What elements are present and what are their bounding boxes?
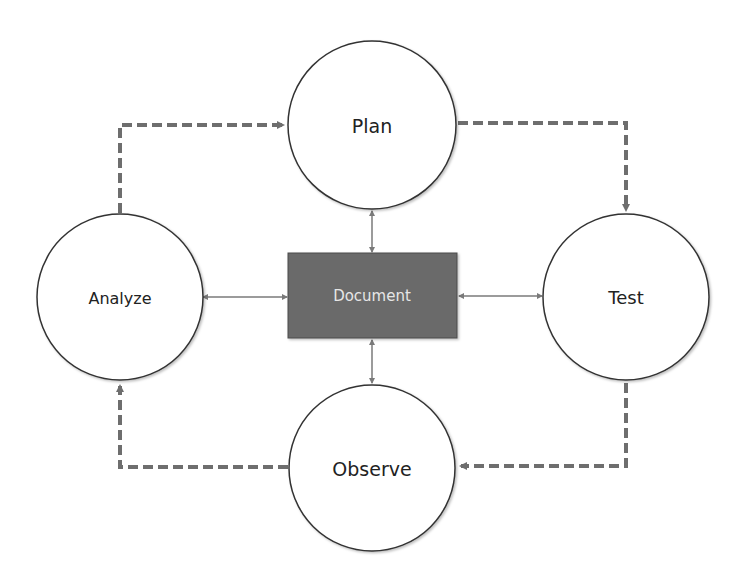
analyze-label: Analyze (88, 289, 151, 308)
plan-label: Plan (352, 115, 392, 137)
observe-label: Observe (332, 458, 411, 480)
node-plan: Plan (288, 41, 456, 209)
node-test: Test (543, 214, 709, 380)
node-observe: Observe (289, 385, 455, 551)
arrow-test-to-observe (461, 383, 626, 466)
test-label: Test (607, 287, 643, 308)
document-label: Document (333, 287, 411, 305)
node-document: Document (288, 253, 457, 338)
cycle-diagram: Plan Test Observe Analyze Document (0, 0, 747, 580)
arrow-analyze-to-plan (120, 125, 283, 213)
arrow-plan-to-test (458, 123, 626, 210)
arrow-observe-to-analyze (120, 386, 288, 467)
node-analyze: Analyze (37, 214, 203, 380)
